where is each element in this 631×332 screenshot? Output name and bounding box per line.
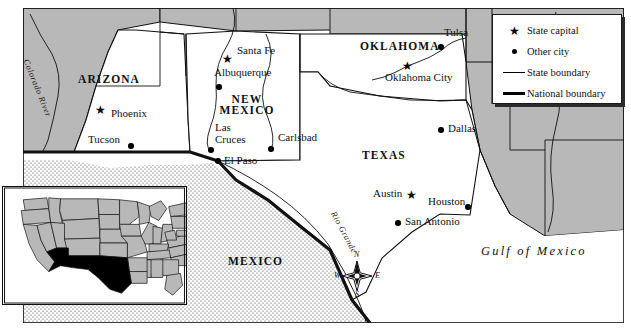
- legend-label-state-capital: State capital: [527, 25, 579, 36]
- compass-label-west: W: [334, 272, 341, 280]
- compass-label-south: S: [355, 291, 359, 299]
- city-marker-san-antonio[interactable]: [395, 220, 401, 226]
- inset-state-co: [65, 238, 100, 256]
- thin-line-icon: [501, 72, 527, 73]
- city-marker-el-paso[interactable]: [215, 158, 221, 164]
- inset-state-ks: [100, 243, 128, 258]
- legend-item-national-boundary: National boundary: [493, 83, 621, 104]
- city-marker-phoenix[interactable]: ★: [95, 104, 106, 116]
- city-label-las-cruces: LasCruces: [215, 121, 257, 145]
- inset-state-ar: [127, 258, 147, 272]
- star-icon: ★: [501, 25, 527, 37]
- inset-state-wv: [165, 230, 177, 240]
- legend-label-other-city: Other city: [527, 46, 569, 57]
- map-figure: ARIZONA NEWMEXICO OKLAHOMA TEXAS MEXICO …: [0, 0, 631, 332]
- city-marker-tucson[interactable]: [128, 143, 134, 149]
- inset-state-or: [21, 209, 50, 225]
- city-label-dallas: Dallas: [448, 123, 476, 134]
- city-marker-santa-fe[interactable]: ★: [222, 53, 233, 65]
- city-label-albuquerque: Albuquerque: [214, 67, 271, 78]
- city-marker-tulsa[interactable]: [438, 44, 444, 50]
- state-label-oklahoma: OKLAHOMA: [360, 41, 440, 53]
- city-marker-las-cruces[interactable]: [208, 147, 214, 153]
- inset-state-sd: [99, 215, 120, 230]
- legend-item-state-capital: ★ State capital: [493, 20, 621, 41]
- city-marker-dallas[interactable]: [438, 127, 444, 133]
- city-label-tulsa: Tulsa: [444, 27, 468, 38]
- city-label-santa-fe: Santa Fe: [237, 45, 275, 56]
- water-label-gulf-of-mexico: Gulf of Mexico: [481, 245, 587, 258]
- legend-item-other-city: Other city: [493, 41, 621, 62]
- inset-state-ia: [120, 224, 142, 236]
- city-marker-austin[interactable]: ★: [406, 189, 417, 201]
- state-label-texas: TEXAS: [362, 150, 406, 162]
- state-label-arizona: ARIZONA: [78, 74, 140, 86]
- inset-locator-map: [2, 186, 187, 305]
- inset-state-la: [129, 272, 147, 284]
- city-marker-albuquerque[interactable]: [216, 84, 222, 90]
- city-marker-carlsbad[interactable]: [268, 146, 274, 152]
- dot-icon: [501, 49, 527, 54]
- city-marker-oklahoma-city[interactable]: ★: [402, 60, 413, 72]
- inset-state-pa: [171, 216, 186, 228]
- state-label-new-mexico-line1: NEWMEXICO: [216, 94, 278, 116]
- map-legend: ★ State capital Other city State boundar…: [492, 14, 622, 104]
- compass-label-north: N: [354, 251, 359, 259]
- city-label-el-paso: El Paso: [224, 155, 257, 166]
- inset-state-ga: [161, 260, 179, 276]
- state-label-mexico: MEXICO: [228, 256, 283, 268]
- inset-state-nd: [98, 199, 120, 215]
- city-label-san-antonio: San Antonio: [405, 216, 460, 227]
- compass-label-east: E: [375, 272, 380, 280]
- city-marker-houston[interactable]: [465, 204, 471, 210]
- inset-canvas: [3, 187, 186, 304]
- state-label-new-mexico: NEWMEXICO: [216, 94, 278, 116]
- inset-state-mt: [60, 199, 99, 221]
- city-label-austin: Austin: [373, 188, 402, 199]
- city-label-tucson: Tucson: [88, 134, 120, 145]
- legend-label-state-boundary: State boundary: [527, 67, 590, 78]
- thick-line-icon: [501, 92, 527, 95]
- legend-item-state-boundary: State boundary: [493, 62, 621, 83]
- legend-label-national-boundary: National boundary: [527, 88, 605, 99]
- city-label-phoenix: Phoenix: [111, 108, 147, 119]
- inset-state-wy: [63, 218, 100, 239]
- city-label-houston: Houston: [428, 196, 465, 207]
- city-label-oklahoma-city: Oklahoma City: [385, 72, 453, 83]
- city-label-carlsbad: Carlsbad: [278, 132, 317, 143]
- inset-state-tn: [147, 250, 171, 260]
